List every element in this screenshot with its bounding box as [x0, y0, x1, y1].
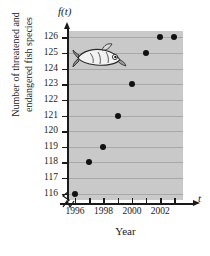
x-axis-tick — [75, 198, 76, 204]
y-axis-tick-label: 126 — [44, 32, 58, 42]
y-axis-tick-label: 116 — [44, 189, 58, 199]
gridline — [68, 178, 183, 179]
y-axis-tick — [62, 131, 68, 132]
y-axis-variable-label: f(t) — [58, 5, 71, 17]
y-axis-arrowhead — [64, 22, 70, 29]
gridline — [68, 162, 183, 163]
x-axis-tick-label: 1998 — [88, 207, 118, 217]
data-point — [72, 191, 78, 197]
data-point — [157, 34, 163, 40]
y-axis-tick — [62, 147, 68, 148]
gridline — [68, 37, 183, 38]
y-axis-title-line-2: endangered fish species — [22, 0, 35, 145]
x-axis-tick-label: 2002 — [145, 207, 175, 217]
x-axis-tick — [160, 198, 161, 204]
fish-species-scatter-chart: f(t) t Number of threatened and endanger — [0, 0, 210, 256]
data-point — [86, 159, 92, 165]
y-axis-title-line-1: Number of threatened and — [10, 0, 23, 145]
x-axis-tick — [174, 198, 175, 204]
gridline — [68, 131, 183, 132]
y-axis-title: Number of threatened and endangered fish… — [10, 0, 35, 145]
y-axis-tick — [62, 194, 68, 195]
data-point — [100, 144, 106, 150]
y-axis-tick — [62, 37, 68, 38]
y-axis-tick-label: 119 — [44, 142, 58, 152]
data-point — [129, 81, 135, 87]
y-axis-tick-label: 118 — [44, 157, 58, 167]
x-axis-tick — [103, 198, 104, 204]
x-axis-tick-label: 2000 — [117, 207, 147, 217]
gridline — [68, 100, 183, 101]
y-axis-tick-label: 117 — [44, 173, 58, 183]
x-axis-variable-label: t — [198, 192, 201, 204]
y-axis-tick-label: 122 — [44, 95, 58, 105]
y-axis-tick-label: 124 — [44, 64, 58, 74]
x-axis-tick — [132, 198, 133, 204]
data-point — [143, 50, 149, 56]
gridline — [68, 194, 183, 195]
y-axis-tick-label: 123 — [44, 79, 58, 89]
y-axis-tick — [62, 69, 68, 70]
y-axis-tick-label: 121 — [44, 111, 58, 121]
gridline — [68, 147, 183, 148]
y-axis-tick — [62, 53, 68, 54]
x-axis-tick-label: 1996 — [60, 207, 90, 217]
gridline — [68, 84, 183, 85]
y-axis-tick — [62, 178, 68, 179]
data-point — [171, 34, 177, 40]
x-axis-tick — [89, 198, 90, 204]
gridline — [68, 116, 183, 117]
y-axis-tick-label: 120 — [44, 126, 58, 136]
x-axis-title: Year — [68, 225, 183, 237]
fish-clipart-icon — [72, 42, 128, 70]
x-axis-tick — [146, 198, 147, 204]
y-axis-tick — [62, 100, 68, 101]
y-axis-tick — [62, 84, 68, 85]
data-point — [115, 113, 121, 119]
y-axis-tick-label: 125 — [44, 48, 58, 58]
y-axis-tick — [62, 162, 68, 163]
x-axis-tick — [118, 198, 119, 204]
y-axis-tick — [62, 116, 68, 117]
